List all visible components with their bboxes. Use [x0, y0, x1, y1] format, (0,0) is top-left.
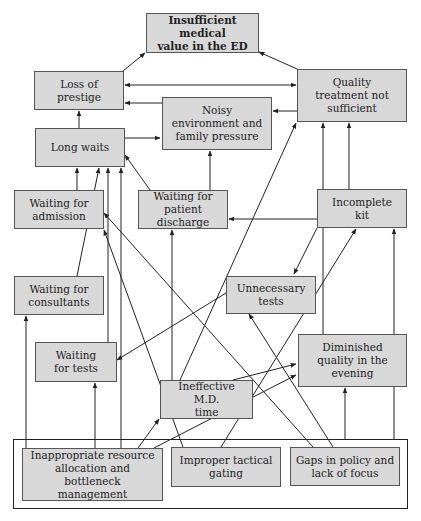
edge-loss-to-insufficient [123, 53, 145, 71]
node-waiting-for-tests: Waiting for tests [35, 342, 117, 382]
edge-ineffective-to-quality [180, 123, 296, 380]
node-long-waits: Long waits [35, 128, 125, 167]
causal-diagram: Insufficient medical value in the ED Los… [0, 0, 421, 521]
node-insufficient-medical-value: Insufficient medical value in the ED [146, 13, 259, 53]
node-quality-treatment-not-sufficient: Quality treatment not sufficient [297, 69, 407, 122]
node-waiting-for-consultants: Waiting for consultants [14, 276, 104, 315]
node-waiting-for-admission: Waiting for admission [14, 190, 104, 229]
node-gaps-in-policy: Gaps in policy and lack of focus [290, 447, 400, 486]
node-unnecessary-tests: Unnecessary tests [226, 276, 316, 314]
node-noisy-environment: Noisy environment and family pressure [162, 97, 272, 150]
node-diminished-quality-evening: Diminished quality in the evening [298, 334, 407, 387]
node-ineffective-md-time: Ineffective M.D. time [160, 380, 253, 419]
edge-kit-to-unnecessary [294, 228, 317, 274]
edge-discharge-to-longwaits [125, 155, 150, 190]
node-incomplete-kit: Incomplete kit [317, 189, 407, 228]
node-improper-tactical-gating: Improper tactical gating [171, 447, 281, 487]
node-inappropriate-resource-allocation: Inappropriate resource allocation and bo… [22, 448, 163, 501]
edge-quality-to-insufficient [259, 52, 297, 69]
node-waiting-for-patient-discharge: Waiting for patient discharge [138, 190, 228, 229]
node-loss-of-prestige: Loss of prestige [34, 71, 124, 110]
